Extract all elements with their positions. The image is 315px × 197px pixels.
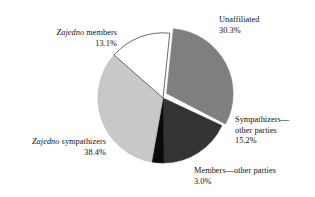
slice-label-zajedno-members-percent: 13.1% [57, 39, 117, 50]
slice-label-zajedno-sympathizers-name: Zajedno sympathizers [32, 137, 106, 146]
slice-label-unaffiliated: Unaffiliated 30.3% [219, 15, 260, 36]
slice-label-sympathizers-other-line1: Sympathizers— [235, 115, 289, 124]
slice-label-sympathizers-other-parties: Sympathizers— other parties 15.2% [235, 115, 289, 147]
slice-label-zajedno-sympathizers-rest: sympathizers [59, 137, 106, 146]
slice-label-zajedno-members-name: Zajedno members [57, 28, 117, 37]
slice-label-unaffiliated-percent: 30.3% [219, 26, 260, 37]
slice-label-sympathizers-other-line2: other parties [235, 126, 277, 135]
slice-label-zajedno-members-rest: members [84, 28, 117, 37]
slice-label-members-other-percent: 3.0% [194, 177, 276, 188]
slice-label-members-other-line1: Members—other parties [194, 166, 276, 175]
party-name-zajedno: Zajedno [32, 137, 60, 146]
pie-chart-figure: Unaffiliated 30.3% Zajedno members 13.1%… [0, 0, 315, 197]
slice-label-zajedno-members: Zajedno members 13.1% [57, 28, 117, 49]
slice-label-zajedno-sympathizers-percent: 38.4% [32, 148, 106, 159]
slice-label-unaffiliated-name: Unaffiliated [219, 15, 260, 24]
slice-label-members-other-parties: Members—other parties 3.0% [194, 166, 276, 187]
slice-label-zajedno-sympathizers: Zajedno sympathizers 38.4% [32, 137, 106, 158]
party-name-zajedno: Zajedno [57, 28, 85, 37]
slice-label-sympathizers-other-percent: 15.2% [235, 136, 289, 147]
